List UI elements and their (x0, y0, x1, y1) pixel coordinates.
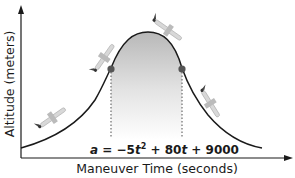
x-axis-label: Maneuver Time (seconds) (76, 161, 238, 176)
equation-label: a = −5t2 + 80t + 9000 (90, 142, 239, 157)
parabola-end-point (178, 65, 185, 72)
x-axis-arrow-icon (284, 155, 293, 161)
airplane-climbing-icon (34, 104, 69, 133)
y-axis (18, 5, 24, 158)
parabolic-flight-diagram: a = −5t2 + 80t + 9000 Maneuver Time (sec… (0, 0, 295, 178)
y-axis-label: Altitude (meters) (2, 31, 17, 138)
parabola-start-point (107, 65, 114, 72)
y-axis-arrow-icon (18, 5, 24, 14)
